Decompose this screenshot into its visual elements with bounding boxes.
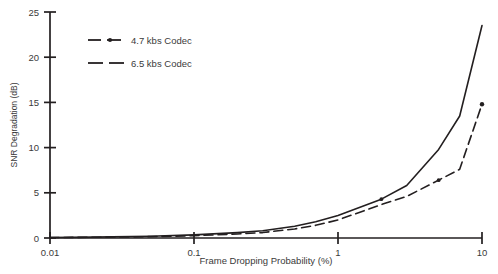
chart-legend: 4.7 kbs Codec 6.5 kbs Codec — [88, 35, 192, 69]
series-1-endpoint-marker — [480, 102, 484, 106]
y-tick-label: 5 — [34, 187, 39, 198]
snr-degradation-chart: 0510152025 0.010.1110 Frame Dropping Pro… — [0, 0, 498, 274]
y-tick-label: 15 — [28, 97, 39, 108]
y-tick-label: 10 — [28, 142, 39, 153]
y-axis-title: SNR Degradation (dB) — [9, 82, 19, 167]
y-tick-label: 25 — [28, 7, 39, 18]
legend-label-0: 4.7 kbs Codec — [131, 35, 192, 46]
legend-entry-1: 6.5 kbs Codec — [88, 58, 192, 69]
series-layer — [50, 26, 484, 238]
x-tick-label: 1 — [335, 247, 340, 258]
y-tick-label: 0 — [34, 233, 39, 244]
chart-canvas: 0510152025 0.010.1110 Frame Dropping Pro… — [0, 0, 498, 274]
legend-label-1: 6.5 kbs Codec — [131, 58, 192, 69]
x-tick-label: 10 — [477, 247, 488, 258]
series-line-0 — [50, 26, 482, 238]
legend-entry-0: 4.7 kbs Codec — [88, 35, 192, 46]
series-1-datapoint-marker — [437, 178, 441, 182]
x-tick-label: 0.01 — [41, 247, 60, 258]
series-0-datapoint-marker — [379, 197, 383, 201]
y-tick-label: 20 — [28, 52, 39, 63]
x-axis-title: Frame Dropping Probability (%) — [199, 255, 332, 266]
legend-marker-dot-0 — [108, 38, 112, 42]
series-line-1 — [50, 104, 482, 237]
y-axis-tick-labels: 0510152025 — [28, 7, 39, 244]
